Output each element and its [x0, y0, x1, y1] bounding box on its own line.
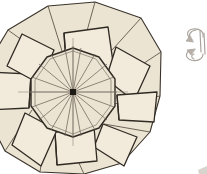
rotation-arrow-icon — [186, 29, 205, 61]
rotation-lower-arc-inner — [192, 54, 194, 59]
panel-left — [0, 72, 31, 110]
figure-container: Deployable folded polygonal ring mechani… — [0, 0, 207, 174]
corner-mark — [198, 166, 207, 174]
rotation-spindle-right — [200, 31, 201, 52]
centre-dot — [70, 89, 76, 95]
panel-right — [117, 92, 157, 122]
rotation-spindle-far-right — [204, 33, 205, 54]
folded-polygon-diagram — [0, 0, 207, 174]
rotation-arrowhead-upper — [186, 36, 193, 42]
